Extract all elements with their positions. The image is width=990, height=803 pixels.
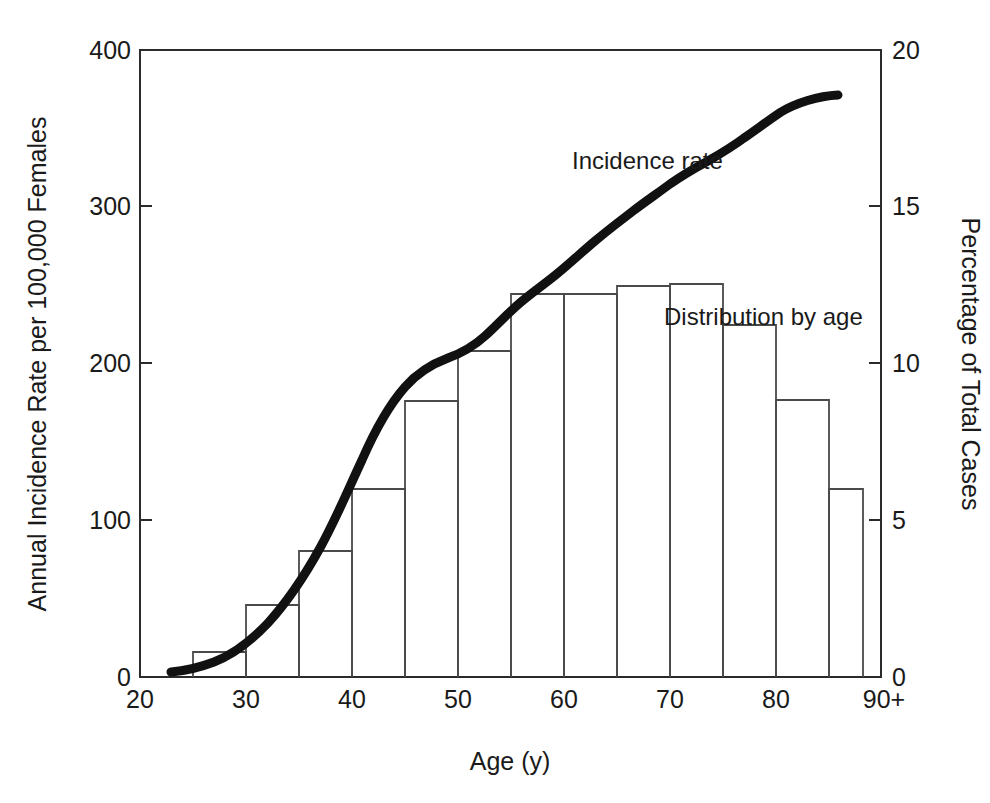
- left-axis-ticks: [140, 50, 152, 677]
- table-row: [776, 400, 829, 677]
- table-row: [458, 351, 511, 677]
- distribution-by-age-label: Distribution by age: [664, 303, 863, 330]
- chart-canvas: 0 100 200 300 400 0 5 10 15 20 20 30 40: [0, 0, 990, 803]
- x-tick-label-50: 50: [444, 685, 472, 713]
- table-row: [670, 284, 723, 677]
- left-tick-label-300: 300: [89, 192, 131, 220]
- incidence-rate-line: [171, 95, 838, 672]
- y-axis-title: Annual Incidence Rate per 100,000 Female…: [23, 117, 51, 612]
- right-tick-label-15: 15: [892, 192, 920, 220]
- histogram-bars: [193, 284, 863, 677]
- x-tick-label-70: 70: [656, 685, 684, 713]
- table-row: [405, 401, 458, 677]
- x-tick-label-20: 20: [126, 685, 154, 713]
- x-tick-label-30: 30: [232, 685, 260, 713]
- table-row: [829, 489, 863, 677]
- x-tick-label-80: 80: [762, 685, 790, 713]
- bottom-axis-tick-labels: 20 30 40 50 60 70 80 90+: [126, 685, 905, 713]
- x-tick-label-60: 60: [550, 685, 578, 713]
- figure-root: 0 100 200 300 400 0 5 10 15 20 20 30 40: [0, 0, 990, 803]
- table-row: [723, 325, 776, 677]
- right-tick-label-20: 20: [892, 36, 920, 64]
- left-tick-label-400: 400: [89, 36, 131, 64]
- right-tick-label-5: 5: [892, 506, 906, 534]
- series-annotations: Incidence rate Distribution by age: [572, 147, 863, 330]
- left-axis-tick-labels: 0 100 200 300 400: [89, 36, 131, 691]
- table-row: [617, 286, 670, 677]
- table-row: [511, 294, 564, 677]
- table-row: [564, 294, 617, 677]
- x-axis-title: Age (y): [470, 747, 551, 775]
- left-tick-label-200: 200: [89, 349, 131, 377]
- x-tick-label-90plus: 90+: [863, 685, 905, 713]
- incidence-rate-label: Incidence rate: [572, 147, 723, 174]
- x-tick-label-40: 40: [338, 685, 366, 713]
- left-tick-label-100: 100: [89, 506, 131, 534]
- right-axis-ticks: [869, 50, 881, 677]
- right-axis-tick-labels: 0 5 10 15 20: [892, 36, 920, 691]
- right-tick-label-10: 10: [892, 349, 920, 377]
- incidence-rate-curve-group: [171, 95, 838, 672]
- y2-axis-title: Percentage of Total Cases: [957, 218, 985, 511]
- table-row: [352, 489, 405, 677]
